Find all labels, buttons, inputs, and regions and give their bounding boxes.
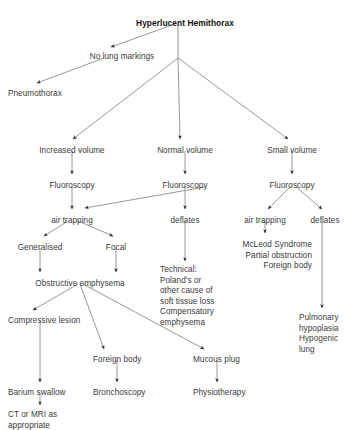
flowchart-edge-fanout-to-normal_vol (178, 58, 180, 139)
flowchart-node-barium: Barium swallow (8, 388, 66, 399)
flowchart-node-generalised: Generalised (18, 243, 63, 254)
flowchart-node-normal_vol: Normal volume (157, 146, 213, 157)
flowchart-node-pulm_hypo: Pulmonary hypoplasia Hypogenic lung (299, 313, 339, 355)
flowchart-node-foreign_body: Foreign body (93, 355, 141, 366)
flowchart-node-deflates_mid: deflates (170, 216, 199, 227)
flowchart-node-fluoro_left: Fluoroscopy (49, 181, 94, 192)
flowchart-node-increased_vol: Increased volume (39, 146, 104, 157)
flowchart-canvas: Hyperlucent HemithoraxNo lung markingsPn… (0, 0, 355, 430)
flowchart-node-compressive: Compressive lesion (8, 316, 80, 327)
flowchart-node-focal: Focal (106, 243, 126, 254)
flowchart-node-air_trap_right: air trapping (244, 216, 286, 227)
flowchart-node-physiotherapy: Physiotherapy (193, 388, 246, 399)
flowchart-node-no_markings: No lung markings (90, 52, 155, 63)
flowchart-edges (33, 24, 322, 405)
flowchart-node-pneumothorax: Pneumothorax (8, 89, 62, 100)
flowchart-edge-obstructive-to-foreign_body (80, 284, 104, 349)
flowchart-node-mucous_plug: Mucous plug (193, 355, 240, 366)
flowchart-node-fluoro_right: Fluoroscopy (269, 181, 314, 192)
flowchart-edge-fanout-to-increased_vol (73, 58, 178, 139)
flowchart-node-deflates_right: deflates (310, 216, 339, 227)
flowchart-node-ct_mri: CT or MRI as appropriate (8, 410, 57, 430)
flowchart-node-air_trap_left: air trapping (51, 216, 93, 227)
flowchart-node-bronchoscopy: Bronchoscopy (93, 388, 145, 399)
flowchart-node-small_vol: Small volume (267, 146, 317, 157)
flowchart-edge-layer (0, 0, 355, 430)
page-title: Hyperlucent Hemithorax (136, 18, 234, 29)
flowchart-node-mcleod: McLeod Syndrome Partial obstruction Fore… (243, 240, 312, 272)
flowchart-node-obstructive: Obstructive emphysema (35, 279, 124, 290)
flowchart-node-fluoro_mid: Fluoroscopy (162, 181, 207, 192)
flowchart-node-technical: Technical: Poland's or other cause of so… (160, 265, 215, 329)
flowchart-edge-fanout-to-small_vol (178, 58, 288, 139)
